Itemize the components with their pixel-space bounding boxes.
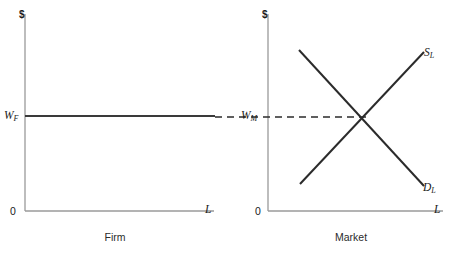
market-wage-symbol: W (241, 109, 251, 121)
market-wage-label: WM (241, 109, 257, 121)
market-wage-subscript: M (251, 114, 258, 123)
market-demand-curve-label: DL (423, 181, 436, 193)
economics-figure (0, 0, 450, 253)
market-panel-caption: Market (296, 231, 406, 243)
firm-wage-symbol: W (4, 109, 14, 121)
market-supply-curve-label: SL (424, 46, 434, 58)
market-origin-label: 0 (255, 205, 261, 217)
firm-y-axis-unit: $ (19, 9, 25, 20)
supply-symbol: S (424, 46, 430, 58)
market-x-axis-variable: L (434, 203, 440, 215)
firm-wage-label: WF (4, 109, 18, 121)
firm-origin-label: 0 (10, 205, 16, 217)
firm-panel-caption: Firm (60, 231, 170, 243)
panel-firm (25, 14, 215, 211)
demand-subscript: L (431, 186, 435, 195)
firm-x-axis-variable: L (205, 203, 211, 215)
firm-wage-subscript: F (14, 114, 19, 123)
supply-subscript: L (430, 51, 434, 60)
market-y-axis-unit: $ (262, 9, 268, 20)
